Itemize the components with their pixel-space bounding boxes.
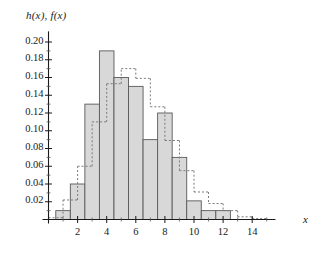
x-axis-tick-label: 6	[127, 226, 145, 237]
y-axis-tick-label: 0.18	[10, 52, 44, 63]
histogram-bar	[129, 86, 144, 219]
y-axis-tick-label: 0.08	[10, 141, 44, 152]
histogram-bar	[114, 78, 129, 220]
histogram-bar	[143, 140, 158, 220]
y-axis-tick-label: 0.20	[10, 35, 44, 46]
y-axis-title: h(x), f(x)	[26, 9, 66, 21]
y-axis-tick-label: 0.16	[10, 70, 44, 81]
y-axis-tick-label: 0.14	[10, 88, 44, 99]
y-axis-tick-label: 0.10	[10, 123, 44, 134]
y-axis-tick-label: 0.04	[10, 177, 44, 188]
x-axis-tick-label: 2	[69, 226, 87, 237]
x-axis-tick-label: 8	[156, 226, 174, 237]
y-axis-tick-label: 0.12	[10, 106, 44, 117]
x-axis-tick-label: 4	[98, 226, 116, 237]
histogram-bar	[172, 157, 187, 219]
histogram-bar	[70, 184, 85, 220]
x-axis-title: x	[303, 213, 308, 225]
y-axis-tick-label: 0.06	[10, 159, 44, 170]
x-axis-tick-label: 12	[214, 226, 232, 237]
histogram-bar	[99, 51, 114, 220]
series-h-filled-bars	[56, 51, 231, 220]
histogram-bar	[158, 113, 173, 220]
x-axis-tick-label: 10	[185, 226, 203, 237]
x-axis-tick-label: 14	[243, 226, 261, 237]
y-axis-tick-label: 0.02	[10, 194, 44, 205]
chart-canvas	[0, 0, 324, 256]
histogram-figure: h(x), f(x) x 0.020.040.060.080.100.120.1…	[0, 0, 324, 256]
